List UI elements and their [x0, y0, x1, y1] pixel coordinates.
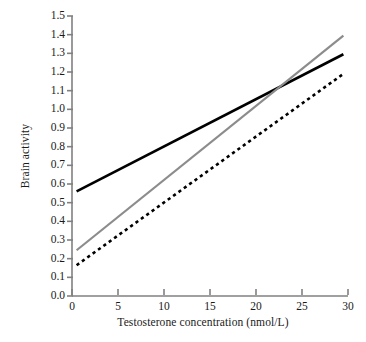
y-tick-label: 0.1 — [31, 271, 65, 283]
y-tick-label: 0.2 — [31, 253, 65, 265]
y-tick-label: 0.9 — [31, 122, 65, 134]
gray-solid-line — [77, 36, 344, 251]
x-tick-label: 10 — [147, 301, 181, 313]
chart-container: 0.00.10.20.30.40.50.60.70.80.91.01.11.21… — [0, 0, 366, 342]
x-tick-label: 25 — [285, 301, 319, 313]
y-tick-label: 0.0 — [31, 290, 65, 302]
y-tick-label: 1.2 — [31, 66, 65, 78]
x-tick-label: 20 — [239, 301, 273, 313]
y-tick-label: 0.8 — [31, 141, 65, 153]
y-tick-label: 1.1 — [31, 85, 65, 97]
y-tick-label: 1.0 — [31, 103, 65, 115]
y-tick-label: 0.4 — [31, 215, 65, 227]
x-tick-label: 30 — [331, 301, 365, 313]
data-series-group — [77, 36, 344, 266]
y-tick-label: 0.7 — [31, 159, 65, 171]
black-solid-line — [77, 54, 344, 191]
axis-group — [72, 16, 348, 296]
x-axis-title: Testosterone concentration (nmol/L) — [40, 316, 366, 328]
x-tick-label: 5 — [101, 301, 135, 313]
y-tick-label: 0.6 — [31, 178, 65, 190]
x-tick-label: 0 — [55, 301, 89, 313]
y-tick-label: 1.4 — [31, 29, 65, 41]
x-tick-label: 15 — [193, 301, 227, 313]
y-axis-title: Brain activity — [19, 86, 31, 226]
tick-marks-group — [67, 16, 348, 296]
y-tick-label: 0.3 — [31, 234, 65, 246]
y-tick-label: 1.5 — [31, 10, 65, 22]
y-tick-label: 0.5 — [31, 197, 65, 209]
y-tick-label: 1.3 — [31, 47, 65, 59]
